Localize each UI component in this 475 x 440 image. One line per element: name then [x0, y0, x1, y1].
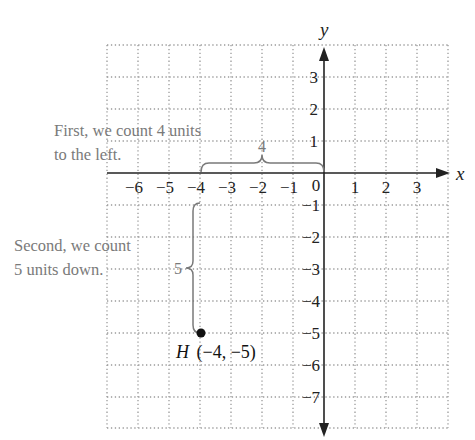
point-h-label: H (−4, −5): [175, 342, 256, 363]
axes: [107, 47, 450, 437]
x-tick-label: −2: [249, 178, 267, 197]
point-h-marker: [197, 329, 206, 338]
horizontal-brace-icon: [201, 155, 324, 172]
point-h-coords: (−4, −5): [197, 342, 256, 363]
y-tick-label: −2: [302, 228, 320, 247]
x-tick-label: −3: [218, 178, 236, 197]
second-step-note-line2: 5 units down.: [14, 260, 103, 279]
y-tick-label: −7: [302, 388, 321, 407]
x-tick-label: 1: [351, 178, 360, 197]
x-tick-label: 3: [413, 178, 422, 197]
second-step-note-line1: Second, we count: [14, 236, 131, 255]
x-tick-label: 2: [382, 178, 391, 197]
vertical-brace-icon: [186, 203, 200, 333]
first-step-note-line1: First, we count 4 units: [54, 121, 201, 140]
y-tick-label: −1: [302, 196, 320, 215]
vertical-brace-label: 5: [174, 260, 182, 277]
y-tick-label: 1: [310, 132, 319, 151]
origin-label: 0: [312, 176, 321, 195]
y-tick-labels: 3 2 1 −1 −2 −3 −4 −5 −6 −7: [302, 68, 321, 407]
y-axis-label: y: [318, 19, 329, 40]
first-step-note-line2: to the left.: [54, 145, 121, 164]
y-tick-label: −3: [302, 260, 320, 279]
x-axis-arrow-icon: [436, 168, 450, 178]
y-tick-label: 2: [310, 100, 319, 119]
y-tick-label: −6: [302, 356, 320, 375]
y-tick-label: −5: [302, 324, 320, 343]
x-tick-label: −6: [125, 178, 143, 197]
y-tick-label: 3: [310, 68, 319, 87]
y-axis-arrow-down-icon: [319, 423, 329, 437]
x-tick-label: −1: [280, 178, 298, 197]
coordinate-plane-diagram: y x −6 −5 −4 −3 −2 −1 0 1 2 3 3 2 1 −1 −…: [0, 0, 475, 440]
x-tick-label: −5: [156, 178, 174, 197]
y-axis-arrow-up-icon: [319, 47, 329, 61]
x-tick-label: −4: [187, 178, 206, 197]
x-axis-label: x: [455, 163, 465, 184]
point-h-name: H: [175, 342, 190, 362]
y-tick-label: −4: [302, 292, 321, 311]
horizontal-brace-label: 4: [258, 138, 266, 155]
x-tick-labels: −6 −5 −4 −3 −2 −1 0 1 2 3: [125, 176, 421, 197]
grid: [107, 45, 448, 428]
